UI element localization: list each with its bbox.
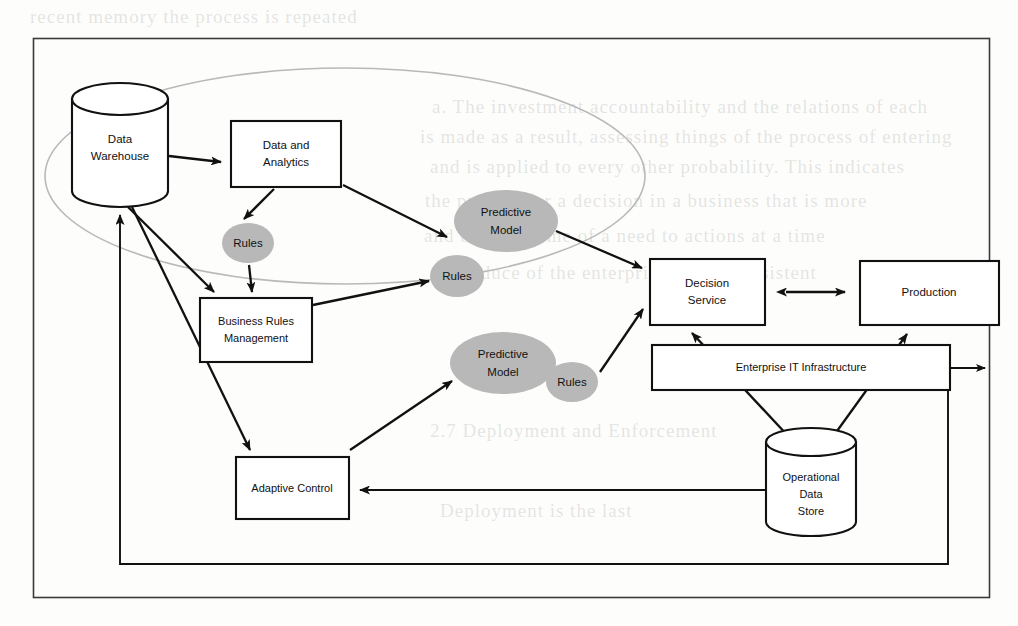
data-warehouse-label-line2: Warehouse	[91, 150, 149, 162]
predictive-model-1-label-line2: Model	[490, 224, 521, 236]
enterprise-it-infrastructure-label: Enterprise IT Infrastructure	[736, 361, 867, 373]
decision-service-label-line2: Service	[688, 294, 726, 306]
diagram-page: recent memory the process is repeateda. …	[0, 0, 1018, 626]
connection-predictive1-to-decision-service	[556, 231, 642, 268]
operational-data-store-label-line1: Operational	[783, 471, 840, 483]
node-enterprise-it-infrastructure[interactable]: Enterprise IT Infrastructure	[652, 345, 950, 390]
node-rules-2[interactable]: Rules	[430, 255, 484, 297]
business-rules-management-label-line1: Business Rules	[218, 315, 294, 327]
adaptive-control-label: Adaptive Control	[251, 482, 332, 494]
node-decision-service[interactable]: Decision Service	[650, 259, 765, 325]
rules-2-label: Rules	[442, 270, 472, 282]
node-production[interactable]: Production	[860, 261, 999, 325]
business-rules-management-label-line2: Management	[224, 332, 288, 344]
predictive-model-1-label-line1: Predictive	[481, 206, 532, 218]
rules-1-label: Rules	[233, 237, 263, 249]
node-adaptive-control[interactable]: Adaptive Control	[236, 457, 349, 519]
decision-service-label-line1: Decision	[685, 277, 729, 289]
connection-rules2-to-decision-service	[600, 309, 643, 372]
node-layer: Data Warehouse Data and Analytics Rules …	[72, 83, 999, 536]
connection-rules1-to-brm	[249, 265, 252, 292]
data-and-analytics-label-line1: Data and	[263, 139, 310, 151]
operational-data-store-label-line3: Store	[798, 505, 824, 517]
node-rules-1[interactable]: Rules	[222, 223, 274, 263]
node-data-and-analytics[interactable]: Data and Analytics	[231, 121, 341, 187]
production-label: Production	[902, 286, 957, 298]
operational-data-store-label-line2: Data	[799, 488, 823, 500]
connection-dw-to-analytics	[169, 156, 221, 162]
architecture-diagram: Data Warehouse Data and Analytics Rules …	[0, 0, 1018, 626]
data-warehouse-label-line1: Data	[108, 133, 133, 145]
node-rules-3[interactable]: Rules	[546, 362, 598, 402]
predictive-model-2-label-line1: Predictive	[478, 348, 529, 360]
operational-data-store-top	[766, 428, 856, 456]
data-and-analytics-box	[231, 121, 341, 187]
connection-adaptive-control-to-predictive2	[350, 381, 452, 450]
decision-service-box	[650, 259, 765, 325]
node-predictive-model-2[interactable]: Predictive Model	[450, 332, 556, 394]
node-business-rules-management[interactable]: Business Rules Management	[200, 298, 312, 362]
node-data-warehouse[interactable]: Data Warehouse	[72, 83, 168, 207]
node-operational-data-store[interactable]: Operational Data Store	[766, 428, 856, 536]
predictive-model-2-label-line2: Model	[487, 366, 518, 378]
business-rules-management-box	[200, 298, 312, 362]
predictive-model-2-ellipse	[450, 332, 556, 394]
connection-analytics-to-predictive1	[343, 185, 447, 237]
connection-dw-to-brm	[128, 207, 214, 292]
node-predictive-model-1[interactable]: Predictive Model	[454, 190, 558, 252]
rules-3-label: Rules	[557, 376, 587, 388]
data-and-analytics-label-line2: Analytics	[263, 156, 309, 168]
data-warehouse-top	[72, 83, 168, 115]
predictive-model-1-ellipse	[454, 190, 558, 252]
connection-analytics-to-rules1	[244, 189, 274, 219]
